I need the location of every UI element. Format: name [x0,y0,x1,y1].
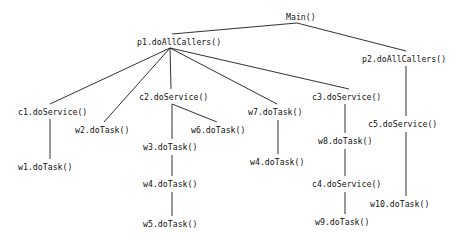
call-edge-p1-to-w2 [104,48,170,122]
node-label-w5: w5.doTask() [142,220,198,229]
call-graph-diagram: Main()p1.doAllCallers()p2.doAllCallers()… [0,0,465,242]
node-label-w1: w1.doTask() [17,163,73,172]
call-edge-main-to-p1 [172,23,297,34]
node-label-w4b: w4.doTask() [249,158,305,167]
call-edge-p1-to-c2 [170,48,171,89]
call-edge-main-to-p2 [297,23,406,51]
node-label-c3: c3.doService() [311,93,382,102]
node-label-w4a: w4.doTask() [142,180,198,189]
node-label-w8: w8.doTask() [317,137,373,146]
node-label-w2: w2.doTask() [74,126,130,135]
node-label-w3: w3.doTask() [142,143,198,152]
node-label-w9: w9.doTask() [314,218,370,227]
node-label-main: Main() [285,13,317,22]
node-label-w10: w10.doTask() [369,200,430,209]
node-label-c4: c4.doService() [311,180,382,189]
node-label-c1: c1.doService() [17,108,88,117]
node-label-p2: p2.doAllCallers() [361,55,447,64]
call-edge-c2-to-w6 [172,104,217,122]
call-edge-p1-to-c3 [170,48,349,89]
node-label-c2: c2.doService() [138,93,209,102]
node-label-w7: w7.doTask() [247,108,303,117]
node-label-w6: w6.doTask() [190,126,246,135]
node-label-c5: c5.doService() [367,120,438,129]
node-label-p1: p1.doAllCallers() [136,38,222,47]
